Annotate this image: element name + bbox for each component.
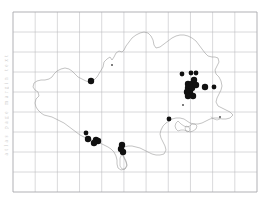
record-dot bbox=[84, 131, 89, 136]
coastline-layer bbox=[33, 32, 233, 170]
map-canvas bbox=[0, 0, 273, 211]
record-dot bbox=[212, 85, 217, 90]
record-dot bbox=[219, 116, 221, 118]
record-dot bbox=[193, 82, 199, 88]
record-dot bbox=[189, 71, 194, 76]
record-dot bbox=[194, 71, 199, 76]
record-dot bbox=[111, 64, 113, 66]
record-dot bbox=[202, 84, 208, 90]
coastline-outline bbox=[33, 32, 233, 170]
record-dot bbox=[85, 136, 91, 142]
distribution-map-figure bbox=[0, 0, 273, 211]
record-dot bbox=[167, 117, 172, 122]
record-markers-layer bbox=[84, 64, 221, 155]
record-dot bbox=[118, 146, 124, 152]
figure-page: atlas page margin text bbox=[0, 0, 273, 211]
record-dot bbox=[180, 72, 185, 77]
record-dot bbox=[182, 104, 184, 106]
record-dot bbox=[91, 140, 97, 146]
record-dot bbox=[88, 78, 94, 84]
record-dot bbox=[185, 93, 191, 99]
grid-layer bbox=[13, 12, 257, 192]
